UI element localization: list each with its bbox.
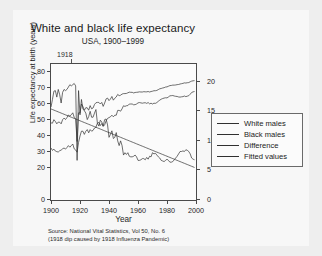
y-axis-left-tick-label: 0: [41, 195, 45, 204]
legend-entry-label: Fitted values: [244, 152, 287, 161]
x-axis-label: Year: [50, 215, 197, 224]
legend-entry: Black males: [214, 129, 300, 140]
plot-area: [50, 63, 197, 201]
y-axis-left-tick-label: 70: [37, 83, 45, 92]
x-axis-tick-label: 1980: [159, 206, 175, 215]
legend-entry: Difference: [214, 140, 300, 151]
legend-entry: Fitted values: [214, 151, 300, 162]
y-axis-left-tick-label: 30: [37, 147, 45, 156]
y-axis-right-tick-mark: [197, 110, 200, 111]
y-axis-right-tick-label: 0: [207, 195, 211, 204]
figure-panel: White and black life expectancy USA, 190…: [13, 10, 309, 246]
series-line: [51, 92, 195, 153]
chart-legend: White malesBlack malesDifferenceFitted v…: [211, 113, 303, 167]
x-axis-tick-label: 2000: [188, 206, 204, 215]
x-axis-tick-label: 1960: [130, 206, 146, 215]
y-axis-right-tick-mark: [197, 169, 200, 170]
source-note-line-2: (1918 dip caused by 1918 Influenza Pande…: [48, 235, 169, 243]
x-axis-tick-mark: [109, 201, 110, 204]
x-axis-tick-mark: [196, 201, 197, 204]
x-axis-ticks: 190019201940196019802000: [50, 201, 197, 215]
x-axis-tick-mark: [167, 201, 168, 204]
line-swatch-icon: [217, 123, 239, 124]
line-swatch-icon: [217, 145, 239, 146]
y-axis-right-tick-mark: [197, 199, 200, 200]
source-note: Source: National Vital Statistics, Vol 5…: [48, 227, 169, 243]
y-axis-right-tick-label: 20: [207, 76, 215, 85]
y-axis-right-tick-mark: [197, 81, 200, 82]
line-swatch-icon: [217, 134, 239, 135]
y-axis-left-tick-label: 40: [37, 131, 45, 140]
chart-subtitle: USA, 1900–1999: [13, 37, 213, 46]
y-axis-left-tick-label: 20: [37, 163, 45, 172]
x-axis-tick-mark: [138, 201, 139, 204]
legend-entry: White males: [214, 118, 300, 129]
y-axis-left-tick-label: 80: [37, 67, 45, 76]
annotation-1918: 1918: [57, 51, 73, 58]
y-axis-left-tick-label: 60: [37, 99, 45, 108]
x-axis-tick-mark: [51, 201, 52, 204]
y-axis-left-ticks: 020304050607080: [27, 63, 45, 201]
series-line: [51, 81, 195, 142]
series-line: [51, 109, 195, 168]
x-axis-tick-label: 1940: [101, 206, 117, 215]
line-swatch-icon: [217, 156, 239, 157]
legend-entry-label: Difference: [244, 141, 278, 150]
plot-lines: [51, 64, 196, 200]
y-axis-left-tick-label: 50: [37, 115, 45, 124]
legend-entry-label: Black males: [244, 130, 285, 139]
y-axis-right-tick-mark: [197, 140, 200, 141]
x-axis-tick-label: 1900: [43, 206, 59, 215]
chart-title: White and black life expectancy: [13, 22, 213, 34]
x-axis-tick-mark: [80, 201, 81, 204]
x-axis-tick-label: 1920: [72, 206, 88, 215]
source-note-line-1: Source: National Vital Statistics, Vol 5…: [48, 227, 169, 235]
legend-entry-label: White males: [244, 119, 286, 128]
